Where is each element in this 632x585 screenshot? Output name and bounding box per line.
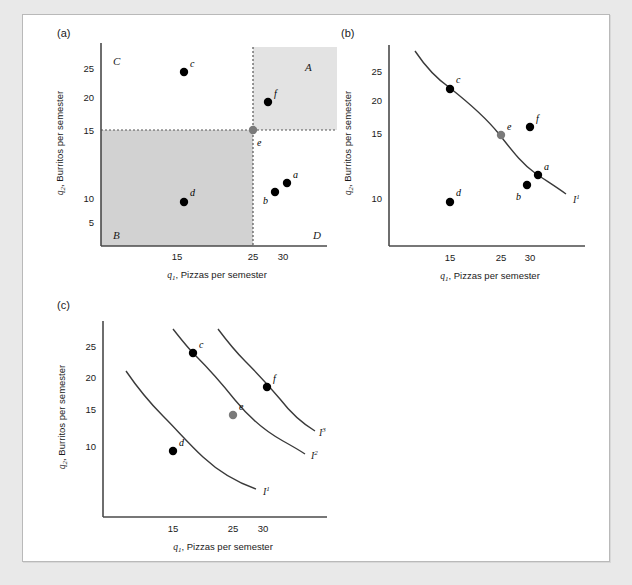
panel-a-ytick-15: 15 xyxy=(83,125,94,136)
panel-c-xtick-15: 15 xyxy=(168,523,179,534)
panel-c-ytick-10: 10 xyxy=(85,441,96,452)
panel-c-plot: 10 15 20 25 15 25 30 q1, Pizzas per seme… xyxy=(37,295,357,557)
panel-b-y-axis-title: q2, Burritos per semester xyxy=(342,91,355,195)
point-label-a: a xyxy=(544,161,549,172)
panel-b-x-axis-title: q1, Pizzas per semester xyxy=(440,270,540,283)
curve-label-i3-sup: 3 xyxy=(321,426,326,434)
point-label-e: e xyxy=(257,137,262,148)
point-label-e: e xyxy=(507,121,512,132)
point-label-e: e xyxy=(239,401,244,412)
point-label-d: d xyxy=(456,187,462,198)
panel-c-xtick-30: 30 xyxy=(258,523,269,534)
panel-b-ytick-25: 25 xyxy=(371,66,382,77)
panel-a-xtick-30: 30 xyxy=(278,251,289,262)
point-f xyxy=(526,123,534,131)
point-label-f: f xyxy=(536,113,540,124)
point-e xyxy=(229,411,237,419)
point-label-b: b xyxy=(516,191,521,202)
region-b-shading xyxy=(101,130,253,246)
panel-a-ytick-5: 5 xyxy=(89,217,94,228)
region-label-c: C xyxy=(113,55,121,67)
point-label-a: a xyxy=(293,169,298,180)
panel-a-ytick-10: 10 xyxy=(83,193,94,204)
panel-b-xtick-25: 25 xyxy=(496,252,507,263)
panel-a-y-axis-title: q2, Burritos per semester xyxy=(54,91,67,195)
panel-c-x-axis-title: q1, Pizzas per semester xyxy=(173,541,273,554)
curve-label-i3: I3 xyxy=(318,426,326,438)
point-a xyxy=(534,171,542,179)
point-d xyxy=(180,198,188,206)
point-c xyxy=(180,68,188,76)
curve-label-i1-sup: 1 xyxy=(576,193,580,201)
indifference-curve-i1 xyxy=(415,51,566,194)
point-d xyxy=(446,198,454,206)
point-e xyxy=(249,126,257,134)
panel-a-ytick-25: 25 xyxy=(83,63,94,74)
panel-a-xtick-25: 25 xyxy=(248,251,259,262)
region-label-a: A xyxy=(304,61,312,73)
point-b xyxy=(523,181,531,189)
region-label-b: B xyxy=(113,229,120,241)
panel-a-xtick-15: 15 xyxy=(172,251,183,262)
point-c xyxy=(189,349,197,357)
panel-a-xlabel-rest: , Pizzas per semester xyxy=(175,269,266,280)
point-label-b: b xyxy=(263,195,268,206)
panel-c-xlabel-rest: , Pizzas per semester xyxy=(181,541,272,552)
panel-b-plot: 10 15 20 25 15 25 30 q1, Pizzas per seme… xyxy=(323,23,598,293)
panel-c-ytick-15: 15 xyxy=(85,404,96,415)
panel-c: (c) 10 15 20 25 15 25 30 q1, Pizzas per … xyxy=(37,295,357,557)
point-label-c: c xyxy=(456,74,461,85)
panel-c-y-axis-title: q2, Burritos per semester xyxy=(56,365,69,469)
point-label-c: c xyxy=(199,339,204,350)
point-a xyxy=(283,179,291,187)
curve-label-i1-sup: 1 xyxy=(266,485,270,493)
panel-b-ylabel-rest: , Burritos per semester xyxy=(342,91,353,187)
panel-a: (a) 5 10 15 20 25 15 25 30 q1, Piz xyxy=(37,23,337,293)
panel-a-x-axis-title: q1, Pizzas per semester xyxy=(167,269,267,282)
panel-c-ytick-25: 25 xyxy=(85,341,96,352)
point-e xyxy=(497,131,505,139)
panel-b: (b) 10 15 20 25 15 25 30 q1, Pizzas per … xyxy=(323,23,598,293)
panel-b-ytick-10: 10 xyxy=(371,193,382,204)
panel-c-ylabel-rest: , Burritos per semester xyxy=(56,365,67,461)
curve-label-i2: I2 xyxy=(310,449,318,461)
region-label-d: D xyxy=(312,229,321,241)
point-b xyxy=(271,188,279,196)
panel-c-xtick-25: 25 xyxy=(228,523,239,534)
panel-c-ytick-20: 20 xyxy=(85,372,96,383)
panel-a-plot: 5 10 15 20 25 15 25 30 q1, Pizzas per se… xyxy=(37,23,337,293)
panel-a-ylabel-rest: , Burritos per semester xyxy=(54,91,65,187)
figure-frame: (a) 5 10 15 20 25 15 25 30 q1, Piz xyxy=(22,14,610,562)
panel-b-xtick-30: 30 xyxy=(525,252,536,263)
point-d xyxy=(169,447,177,455)
panel-a-ytick-20: 20 xyxy=(83,92,94,103)
panel-b-ytick-15: 15 xyxy=(371,128,382,139)
point-f xyxy=(263,383,271,391)
point-c xyxy=(446,85,454,93)
indifference-curve-i2 xyxy=(173,329,305,454)
curve-label-i1: I1 xyxy=(572,193,580,205)
point-label-f: f xyxy=(273,373,277,384)
curve-label-i2-sup: 2 xyxy=(314,449,318,457)
panel-b-xtick-15: 15 xyxy=(445,252,456,263)
panel-b-xlabel-rest: , Pizzas per semester xyxy=(448,270,539,281)
indifference-curve-i1 xyxy=(126,371,256,489)
panel-b-ytick-20: 20 xyxy=(371,95,382,106)
point-f xyxy=(264,98,272,106)
curve-label-i1: I1 xyxy=(262,485,270,497)
point-label-c: c xyxy=(190,58,195,69)
